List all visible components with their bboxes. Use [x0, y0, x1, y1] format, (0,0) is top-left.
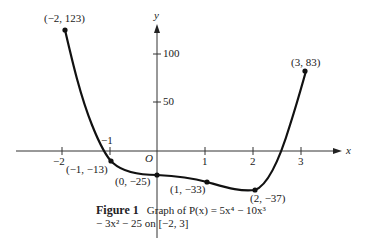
origin-label: O	[145, 152, 153, 164]
point-label: (1, −33)	[170, 183, 206, 195]
point-label: (−1, −13)	[66, 163, 108, 175]
y-tick-label-50: 50	[163, 95, 174, 107]
figure-label: Figure 1	[96, 203, 139, 217]
point-label: (−2, 123)	[44, 12, 85, 24]
caption-line-2: − 3x² − 25 on [−2, 3]	[96, 217, 336, 230]
x-tick-label-3: 3	[298, 155, 304, 167]
y-tick-label-100: 100	[163, 47, 180, 59]
point-label: (2, −37)	[250, 192, 286, 204]
x-tick-label-1: 1	[202, 155, 208, 167]
x-tick-label-neg1: −1	[101, 134, 113, 146]
point-label: (0, −25)	[115, 175, 151, 187]
x-axis-label: x	[346, 144, 351, 156]
x-tick-label-2: 2	[250, 155, 256, 167]
figure-caption: Figure 1Graph of P(x) = 5x⁴ − 10x³ − 3x²…	[96, 204, 336, 230]
x-tick-label-neg2: −2	[53, 155, 65, 167]
y-axis-label: y	[154, 9, 159, 21]
caption-line-1: Graph of P(x) = 5x⁴ − 10x³	[147, 204, 266, 216]
point-label: (3, 83)	[291, 56, 320, 68]
